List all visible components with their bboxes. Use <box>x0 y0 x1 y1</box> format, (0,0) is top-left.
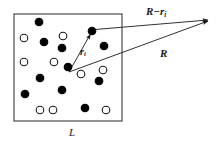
filled-particle <box>64 63 72 71</box>
box-side-label-L: L <box>69 127 75 138</box>
vector-R-minus-ri-line <box>95 20 208 30</box>
filled-particle <box>95 77 103 85</box>
open-particle <box>20 34 28 42</box>
open-particles-group <box>20 32 110 114</box>
figure-canvas <box>0 0 221 147</box>
label-L-text: L <box>69 126 75 138</box>
filled-particle <box>21 90 29 98</box>
filled-particle <box>100 42 108 50</box>
filled-particle <box>35 18 43 26</box>
filled-particle <box>88 27 96 35</box>
vector-label-R: R <box>160 48 167 59</box>
filled-particle <box>36 74 44 82</box>
open-particle <box>50 58 58 66</box>
filled-particle <box>81 104 89 112</box>
filled-particle <box>40 38 48 46</box>
label-R-text: R <box>160 47 167 59</box>
open-particle <box>77 70 85 78</box>
open-particle <box>99 66 107 74</box>
vector-label-R-minus-ri: R−ri <box>146 6 166 19</box>
open-particle <box>49 106 57 114</box>
label-r-subscript: i <box>164 11 166 19</box>
label-minus-operator: − <box>153 5 160 17</box>
scattering-geometry-figure: R−ri R ri L <box>0 0 221 147</box>
open-particle <box>59 32 67 40</box>
label-ri-subscript: i <box>84 50 86 57</box>
filled-particle <box>58 86 66 94</box>
filled-particle <box>58 44 66 52</box>
open-particle <box>36 106 44 114</box>
open-particle <box>102 106 110 114</box>
open-particle <box>20 58 28 66</box>
vector-label-ri: ri <box>80 47 86 58</box>
